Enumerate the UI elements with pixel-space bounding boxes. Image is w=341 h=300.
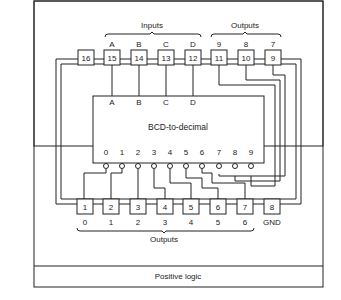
pin-2: 2 (109, 203, 114, 212)
chip-output-3: 3 (152, 148, 157, 157)
pin-15: 15 (108, 54, 117, 63)
pin-6: 6 (216, 203, 221, 212)
chip-output-5: 5 (184, 148, 189, 157)
bottom-outputs-brace (77, 228, 254, 233)
top-signal-7: 7 (271, 40, 276, 49)
chip-output-7: 7 (217, 148, 222, 157)
pin-4: 4 (163, 203, 168, 212)
pin-8: 8 (270, 203, 275, 212)
bottom-signal-5: 5 (216, 218, 221, 227)
chip-input-A: A (109, 98, 115, 107)
bottom-signal-1: 1 (109, 218, 114, 227)
inputs-group-label: Inputs (141, 21, 163, 30)
wire-out-4 (170, 169, 191, 200)
chip-output-0: 0 (104, 148, 109, 157)
pin-16: 16 (82, 54, 91, 63)
chip-input-D: D (190, 98, 196, 107)
pin-1: 1 (83, 203, 88, 212)
chip-output-2: 2 (136, 148, 141, 157)
pin-12: 12 (189, 54, 198, 63)
pin-13: 13 (162, 54, 171, 63)
top-signal-8: 8 (244, 40, 249, 49)
bottom-signal-4: 4 (189, 218, 194, 227)
top-signal-9: 9 (217, 40, 222, 49)
chip-output-1: 1 (120, 148, 125, 157)
bottom-signal-0: 0 (83, 218, 88, 227)
top-outputs-group-label: Outputs (231, 21, 259, 30)
chip-output-9: 9 (249, 148, 254, 157)
bottom-signal-3: 3 (163, 218, 168, 227)
pin-5: 5 (189, 203, 194, 212)
bcd-to-decimal-pinout-diagram: Positive logic Inputs Outputs A B C D 9 … (0, 0, 341, 300)
chip-output-8: 8 (233, 148, 238, 157)
chip-output-4: 4 (168, 148, 173, 157)
chip-input-B: B (136, 98, 141, 107)
pin-10: 10 (242, 54, 251, 63)
top-signal-B: B (136, 40, 141, 49)
wire-out-6 (202, 169, 245, 200)
chip-input-C: C (163, 98, 169, 107)
top-signal-A: A (109, 40, 115, 49)
pin-11: 11 (215, 54, 224, 63)
footer-label: Positive logic (155, 272, 202, 281)
top-outputs-brace (211, 32, 281, 37)
top-signal-C: C (163, 40, 169, 49)
chip-output-6: 6 (200, 148, 205, 157)
wire-out-0 (84, 169, 106, 200)
bottom-outputs-group-label: Outputs (150, 235, 178, 244)
bottom-pins: 1 2 3 4 5 6 7 8 (77, 199, 280, 214)
chip-label: BCD-to-decimal (148, 122, 208, 132)
top-pins: 16 15 14 13 12 11 10 9 (78, 50, 281, 65)
inputs-brace (105, 32, 201, 37)
wire-out-1 (111, 169, 122, 200)
pin-14: 14 (135, 54, 144, 63)
top-signal-D: D (190, 40, 196, 49)
pin-7: 7 (243, 203, 248, 212)
pin-3: 3 (136, 203, 141, 212)
bottom-signal-gnd: GND (263, 218, 281, 227)
bottom-signal-2: 2 (136, 218, 141, 227)
wire-out-3 (154, 169, 165, 200)
bottom-signal-6: 6 (243, 218, 248, 227)
pin-9: 9 (271, 54, 276, 63)
